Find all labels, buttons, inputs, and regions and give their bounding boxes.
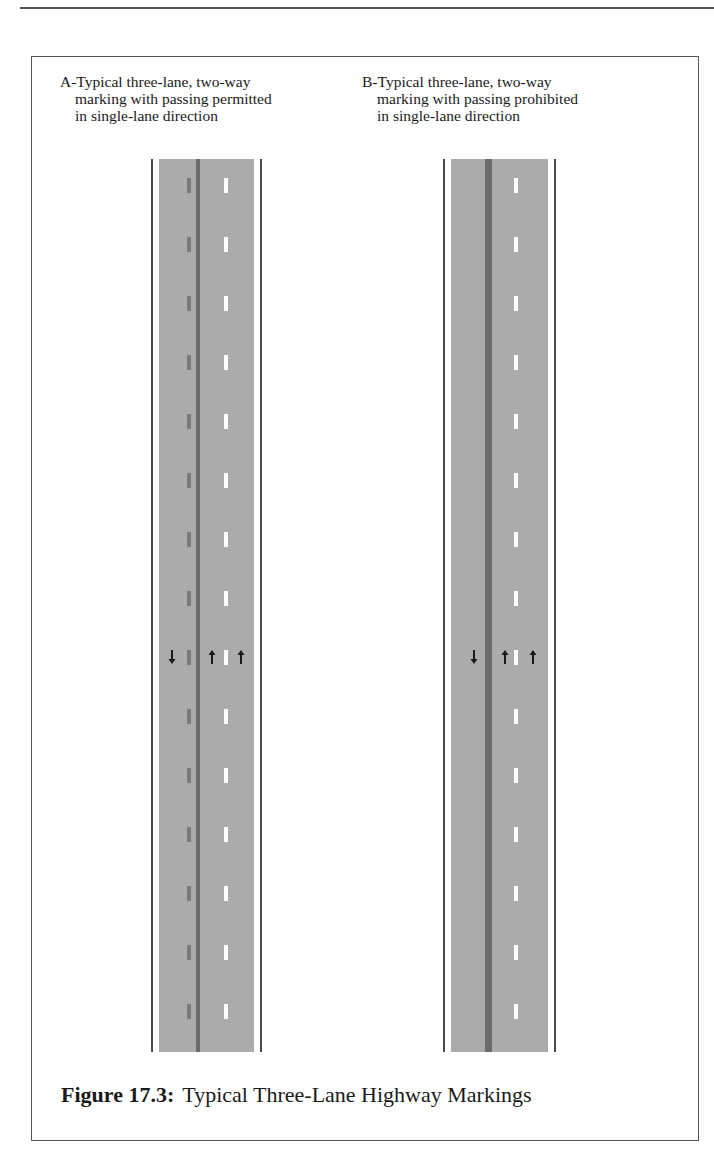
center-dash (187, 178, 191, 193)
lane-dash (224, 237, 228, 252)
lane-dash (514, 473, 518, 488)
lane-dash (514, 296, 518, 311)
pavement (159, 159, 254, 1052)
lane-dash (224, 945, 228, 960)
right-outer-line (554, 159, 556, 1052)
center-dash (187, 709, 191, 724)
lane-dash (224, 532, 228, 547)
lane-dash (224, 827, 228, 842)
lane-dash (224, 473, 228, 488)
lane-dash (514, 532, 518, 547)
lane-dash (224, 768, 228, 783)
lane-dash (514, 355, 518, 370)
arrow-down-icon (469, 649, 479, 665)
center-dash (187, 532, 191, 547)
panel-a-label-line3: in single-lane direction (60, 107, 272, 124)
lane-dash (514, 945, 518, 960)
center-dash (187, 650, 191, 665)
figure-title: Typical Three-Lane Highway Markings (182, 1082, 531, 1107)
center-dash (187, 591, 191, 606)
panel-b-label-line3: in single-lane direction (362, 107, 578, 124)
lane-dash (224, 650, 228, 665)
lane-dash (514, 178, 518, 193)
lane-dash (514, 709, 518, 724)
lane-dash (224, 709, 228, 724)
pavement (451, 159, 548, 1052)
center-dash (187, 473, 191, 488)
center-dash (187, 237, 191, 252)
page-top-rule (20, 7, 714, 9)
lane-dash (224, 414, 228, 429)
figure-caption: Figure 17.3:Typical Three-Lane Highway M… (61, 1082, 532, 1108)
lane-dash (514, 1004, 518, 1019)
lane-dash (224, 296, 228, 311)
lane-dash (514, 650, 518, 665)
left-outer-line (151, 159, 153, 1052)
panel-a-label-line1: A-Typical three-lane, two-way (60, 73, 272, 90)
lane-dash (224, 178, 228, 193)
panel-b-label: B-Typical three-lane, two-way marking wi… (362, 73, 578, 124)
lane-dash (224, 355, 228, 370)
center-dash (187, 827, 191, 842)
lane-dash (224, 1004, 228, 1019)
lane-dash (514, 827, 518, 842)
center-dash (187, 945, 191, 960)
center-dash (187, 768, 191, 783)
lane-dash (514, 768, 518, 783)
arrow-up-icon (528, 649, 538, 665)
arrow-up-icon (207, 649, 217, 665)
arrow-down-icon (167, 649, 177, 665)
figure-frame (31, 56, 699, 1141)
center-dash (187, 414, 191, 429)
panel-a-label: A-Typical three-lane, two-way marking wi… (60, 73, 272, 124)
panel-a-label-line2: marking with passing permitted (60, 90, 272, 107)
arrow-up-icon (500, 649, 510, 665)
road-diagram-b (443, 159, 557, 1052)
road-diagram-a (151, 159, 263, 1052)
lane-dash (514, 591, 518, 606)
right-edge-line (548, 159, 553, 1052)
center-dash (187, 886, 191, 901)
lane-dash (514, 414, 518, 429)
lane-dash (224, 886, 228, 901)
figure-number: Figure 17.3: (61, 1082, 174, 1107)
right-outer-line (260, 159, 262, 1052)
right-edge-line (254, 159, 259, 1052)
center-dash (187, 1004, 191, 1019)
panel-b-label-line1: B-Typical three-lane, two-way (362, 73, 578, 90)
panel-b-label-line2: marking with passing prohibited (362, 90, 578, 107)
lane-dash (514, 237, 518, 252)
solid-center-line (196, 159, 200, 1052)
lane-dash (514, 886, 518, 901)
center-dash (187, 296, 191, 311)
double-solid-center-line (485, 159, 492, 1052)
lane-dash (224, 591, 228, 606)
center-dash (187, 355, 191, 370)
left-outer-line (443, 159, 445, 1052)
arrow-up-icon (236, 649, 246, 665)
